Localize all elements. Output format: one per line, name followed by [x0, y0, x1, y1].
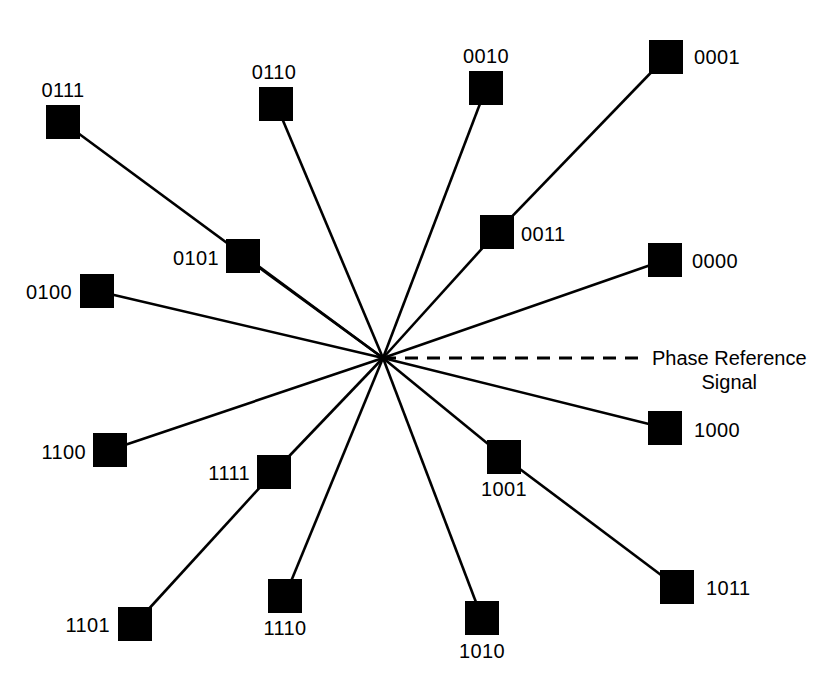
phase-reference-line2-text: Signal — [652, 370, 807, 394]
symbol-square-1011[interactable] — [660, 570, 694, 604]
constellation-figure: 0111011000100001001100000101010011001111… — [0, 0, 837, 687]
symbol-label-1101: 1101 — [65, 615, 110, 635]
symbol-label-0000: 0000 — [692, 251, 738, 271]
symbol-square-0111[interactable] — [46, 105, 80, 139]
symbol-square-0000[interactable] — [648, 243, 682, 277]
symbol-label-1100: 1100 — [41, 442, 86, 462]
vector-line-0010 — [383, 88, 486, 358]
vector-line-1100 — [110, 358, 383, 450]
symbol-label-1010: 1010 — [459, 641, 505, 661]
symbol-square-1111[interactable] — [257, 455, 291, 489]
symbol-square-0110[interactable] — [259, 87, 293, 121]
vector-line-0100 — [97, 291, 383, 358]
symbol-label-0001: 0001 — [694, 47, 740, 67]
symbol-label-0101: 0101 — [173, 248, 219, 268]
symbol-square-0011[interactable] — [480, 215, 514, 249]
vector-line-0000 — [383, 260, 665, 358]
symbol-label-1000: 1000 — [694, 420, 740, 440]
symbol-label-0111: 0111 — [41, 80, 84, 100]
symbol-square-0010[interactable] — [469, 71, 503, 105]
symbol-square-1001[interactable] — [487, 440, 521, 474]
origin-point — [380, 355, 386, 361]
symbol-label-0110: 0110 — [252, 62, 297, 82]
vector-line-1110 — [285, 358, 383, 596]
symbol-label-1001: 1001 — [481, 479, 527, 499]
symbol-square-0100[interactable] — [80, 274, 114, 308]
phase-reference-annotation: Phase Reference Signal — [652, 346, 807, 395]
vector-line-1011 — [504, 457, 677, 587]
symbol-square-1100[interactable] — [93, 433, 127, 467]
symbol-label-0010: 0010 — [463, 46, 509, 66]
vector-line-1101 — [135, 472, 274, 624]
vector-lines-group — [63, 57, 677, 624]
symbol-square-1000[interactable] — [648, 411, 682, 445]
symbol-label-1011: 1011 — [706, 578, 751, 598]
symbol-label-1110: 1110 — [263, 618, 306, 638]
symbol-square-1101[interactable] — [118, 607, 152, 641]
symbol-square-0101[interactable] — [226, 239, 260, 273]
symbol-square-0001[interactable] — [649, 40, 683, 74]
symbol-label-0011: 0011 — [521, 224, 566, 244]
symbol-label-0100: 0100 — [26, 282, 72, 302]
vector-line-0001 — [497, 57, 666, 232]
phase-reference-line1-text: Phase Reference — [652, 346, 807, 370]
symbol-label-1111: 1111 — [208, 463, 250, 483]
symbol-square-1010[interactable] — [465, 601, 499, 635]
symbol-square-1110[interactable] — [268, 579, 302, 613]
